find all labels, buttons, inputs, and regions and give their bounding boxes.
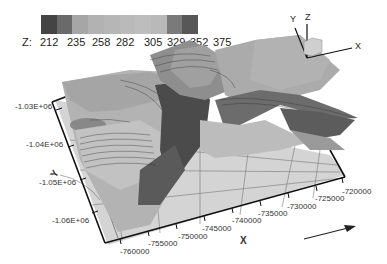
y-tick-label: -1.03E+06 xyxy=(15,102,52,111)
y-tick-label: -1.05E+06 xyxy=(39,178,76,187)
x-tick-label: -730000 xyxy=(287,202,316,211)
x-tick-label: -755000 xyxy=(148,239,177,248)
x-tick-label: -750000 xyxy=(178,232,207,241)
triad-y-label: Y xyxy=(290,14,296,24)
triad-x-label: X xyxy=(355,41,361,51)
x-tick-label: -735000 xyxy=(258,209,287,218)
triad-z-label: Z xyxy=(305,12,311,22)
x-tick-label: -725000 xyxy=(315,194,344,203)
x-tick-label: -740000 xyxy=(232,216,261,225)
y-tick-label: -1.06E+06 xyxy=(52,216,89,225)
x-tick-label: -760000 xyxy=(120,247,149,256)
y-tick-label: -1.04E+06 xyxy=(26,140,63,149)
direction-arrow xyxy=(304,225,356,239)
x-tick-label: -720000 xyxy=(342,187,371,196)
x-tick-label: -745000 xyxy=(202,224,231,233)
x-axis-title: X xyxy=(240,235,247,246)
